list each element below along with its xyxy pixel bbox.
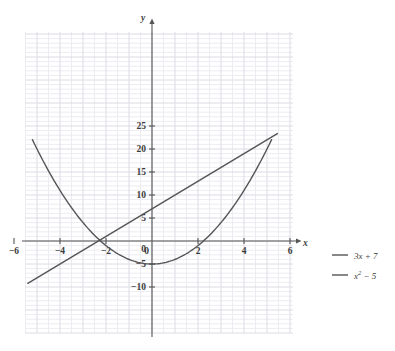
- x-axis-label: x: [302, 238, 308, 248]
- plot-canvas: −6−4−20246−10−50510152025 xy 3x + 7x2 − …: [0, 0, 395, 351]
- legend: 3x + 7x2 − 5: [332, 251, 378, 281]
- grid-minor-lines: [25, 32, 293, 333]
- y-tick-label: −5: [136, 259, 146, 269]
- axis-tick-labels: −6−4−20246−10−50510152025: [9, 121, 293, 292]
- x-tick-label: −2: [101, 246, 111, 256]
- y-tick-label: 10: [137, 190, 147, 200]
- x-tick-label: 6: [288, 246, 293, 256]
- y-tick-label: −10: [131, 282, 146, 292]
- x-tick-label: 4: [242, 246, 247, 256]
- y-tick-label: 20: [137, 144, 147, 154]
- x-tick-label: −6: [9, 246, 19, 256]
- grid-major-lines: [25, 32, 293, 333]
- y-tick-label: 15: [137, 167, 147, 177]
- y-tick-label: 0: [141, 244, 146, 254]
- legend-label-1: x2 − 5: [353, 269, 377, 280]
- y-tick-label: 25: [137, 121, 147, 131]
- legend-label-0: 3x + 7: [353, 251, 378, 261]
- x-tick-label: −4: [55, 246, 65, 256]
- graph-figure: −6−4−20246−10−50510152025 xy 3x + 7x2 − …: [0, 0, 395, 351]
- y-axis-label: y: [140, 13, 146, 23]
